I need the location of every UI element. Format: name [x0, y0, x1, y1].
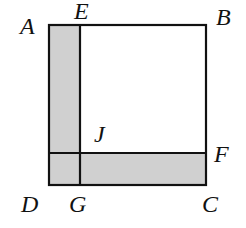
label-j: J [94, 121, 106, 147]
label-d: D [20, 191, 38, 217]
label-e: E [73, 0, 89, 24]
label-a: A [18, 13, 35, 39]
geometry-diagram: A E B J F D G C [0, 0, 246, 228]
label-c: C [202, 191, 219, 217]
label-g: G [69, 191, 86, 217]
label-b: B [216, 4, 231, 30]
label-f: F [213, 141, 229, 167]
shaded-bottom-strip [49, 153, 206, 185]
